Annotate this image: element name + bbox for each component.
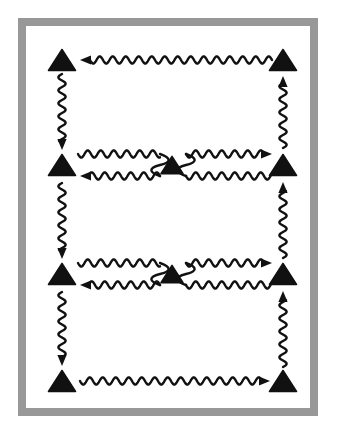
diagram-canvas xyxy=(0,0,344,437)
figure-root xyxy=(0,0,344,437)
